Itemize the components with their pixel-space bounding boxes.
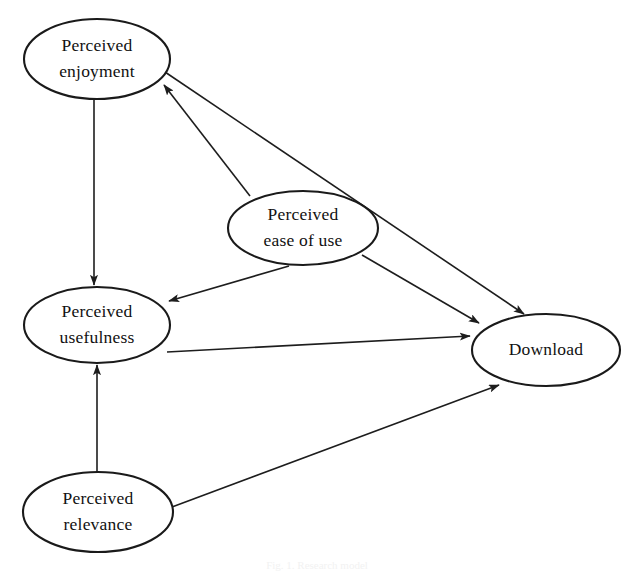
- edge-ease-of-use-to-enjoyment: [164, 85, 250, 196]
- edge-ease-of-use-to-download: [362, 255, 479, 323]
- edge-relevance-to-download: [172, 385, 499, 507]
- node-perceived-enjoyment[interactable]: Perceived enjoyment: [24, 19, 170, 99]
- node-label-perceived-usefulness-line1: Perceived: [62, 301, 133, 321]
- node-ellipse-perceived-relevance[interactable]: [23, 472, 173, 552]
- node-download[interactable]: Download: [472, 314, 620, 386]
- path-model-diagram: Perceived enjoyment Perceived ease of us…: [0, 0, 634, 572]
- edge-usefulness-to-download: [167, 336, 470, 352]
- node-label-perceived-relevance-line1: Perceived: [63, 488, 134, 508]
- node-perceived-usefulness[interactable]: Perceived usefulness: [24, 287, 170, 363]
- node-ellipse-perceived-usefulness[interactable]: [24, 287, 170, 363]
- node-label-download-line1: Download: [509, 339, 584, 359]
- node-perceived-relevance[interactable]: Perceived relevance: [23, 472, 173, 552]
- node-label-perceived-relevance-line2: relevance: [64, 514, 133, 534]
- node-label-perceived-enjoyment-line2: enjoyment: [59, 61, 135, 81]
- node-label-perceived-usefulness-line2: usefulness: [60, 327, 135, 347]
- node-label-perceived-enjoyment-line1: Perceived: [62, 35, 133, 55]
- node-label-perceived-ease-of-use-line2: ease of use: [264, 230, 343, 250]
- nodes-layer: Perceived enjoyment Perceived ease of us…: [23, 19, 620, 552]
- diagram-canvas: Perceived enjoyment Perceived ease of us…: [0, 0, 634, 572]
- edge-ease-of-use-to-usefulness: [169, 266, 289, 301]
- node-ellipse-perceived-ease-of-use[interactable]: [228, 191, 378, 265]
- edge-enjoyment-to-download: [165, 72, 524, 314]
- figure-caption: Fig. 1. Research model: [0, 559, 634, 572]
- edges-layer: [94, 72, 524, 507]
- node-label-perceived-ease-of-use-line1: Perceived: [268, 204, 339, 224]
- node-ellipse-perceived-enjoyment[interactable]: [24, 19, 170, 99]
- node-perceived-ease-of-use[interactable]: Perceived ease of use: [228, 191, 378, 265]
